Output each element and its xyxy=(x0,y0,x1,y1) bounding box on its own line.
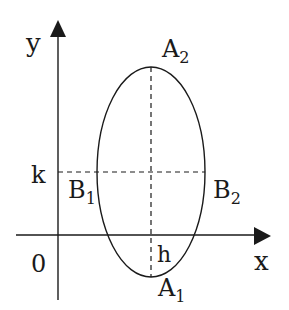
ellipse-diagram: y x 0 k h A2 A1 B1 B2 xyxy=(0,0,289,310)
h-label: h xyxy=(157,242,171,267)
k-label: k xyxy=(31,161,46,189)
co-vertex-b2-label: B2 xyxy=(213,176,241,208)
y-axis-label: y xyxy=(25,28,41,58)
vertex-a2-label: A2 xyxy=(161,35,190,67)
y-axis-arrow-icon xyxy=(50,20,66,37)
x-axis-label: x xyxy=(254,246,269,276)
origin-label: 0 xyxy=(31,250,46,278)
co-vertex-b1-label: B1 xyxy=(68,176,96,208)
x-axis-arrow-icon xyxy=(254,227,271,245)
diagram-svg: y x 0 k h A2 A1 B1 B2 xyxy=(0,0,289,310)
vertex-a1-label: A1 xyxy=(157,274,186,306)
